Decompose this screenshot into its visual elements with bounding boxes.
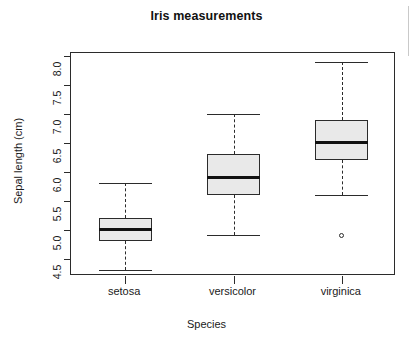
cap-upper-virginica — [315, 62, 368, 63]
plot-inner — [71, 53, 394, 274]
y-axis-tick — [64, 259, 71, 260]
y-axis-tick — [64, 143, 71, 144]
plot-area: 4.55.05.56.06.57.07.58.0 — [70, 52, 395, 275]
x-axis-tick-label-setosa: setosa — [69, 285, 179, 297]
cap-lower-virginica — [315, 195, 368, 196]
cap-upper-setosa — [99, 183, 152, 184]
whisker-lower-setosa — [125, 241, 126, 270]
whisker-lower-versicolor — [234, 195, 235, 236]
box-virginica — [315, 120, 368, 161]
box-versicolor — [207, 154, 260, 195]
y-axis-tick — [64, 114, 71, 115]
whisker-lower-virginica — [342, 160, 343, 195]
x-axis-tick — [342, 276, 343, 284]
whisker-upper-versicolor — [234, 114, 235, 155]
y-axis-tick-label: 5.0 — [51, 228, 63, 258]
y-axis-title: Sepal length (cm) — [12, 81, 24, 241]
y-axis-tick — [64, 56, 71, 57]
y-axis-tick — [64, 172, 71, 173]
y-axis-tick-label: 6.0 — [51, 170, 63, 200]
y-axis-tick — [64, 85, 71, 86]
median-versicolor — [207, 176, 260, 179]
chart-canvas: Iris measurements Sepal length (cm) 4.55… — [0, 0, 413, 345]
cap-lower-versicolor — [207, 235, 260, 236]
y-axis-tick-label: 7.0 — [51, 112, 63, 142]
whisker-upper-setosa — [125, 183, 126, 218]
y-axis-tick-label: 4.5 — [51, 257, 63, 287]
x-axis-tick — [125, 276, 126, 284]
cap-upper-versicolor — [207, 114, 260, 115]
x-axis-title: Species — [0, 318, 413, 330]
y-axis-tick — [64, 201, 71, 202]
whisker-upper-virginica — [342, 62, 343, 120]
x-axis-tick-label-virginica: virginica — [286, 285, 396, 297]
y-axis-tick-label: 6.5 — [51, 141, 63, 171]
x-axis-tick — [234, 276, 235, 284]
x-axis-tick-label-versicolor: versicolor — [178, 285, 288, 297]
y-axis-tick — [64, 230, 71, 231]
cap-lower-setosa — [99, 270, 152, 271]
y-axis-tick-label: 5.5 — [51, 199, 63, 229]
y-axis-tick-label: 7.5 — [51, 83, 63, 113]
median-virginica — [315, 141, 368, 144]
median-setosa — [99, 228, 152, 231]
y-axis-tick-label: 8.0 — [51, 54, 63, 84]
chart-title: Iris measurements — [0, 9, 413, 23]
edge-artifact — [408, 6, 409, 56]
outlier-point-virginica — [339, 233, 344, 238]
